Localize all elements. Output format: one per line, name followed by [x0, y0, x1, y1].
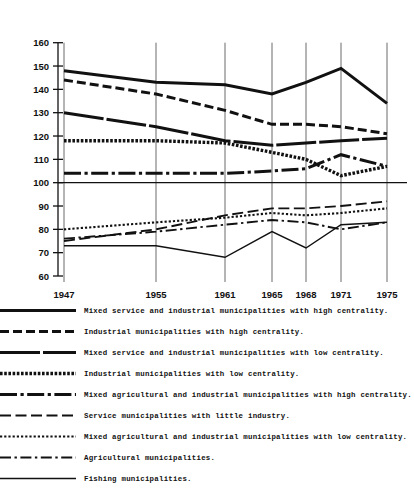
legend-table: Mixed service and industrial municipalit… [0, 300, 414, 489]
legend-swatch-cell [0, 384, 84, 405]
legend-swatch-cell [0, 321, 84, 342]
y-axis-tick-label: 160 [33, 37, 49, 48]
x-axis-tick-label: 1961 [214, 289, 236, 300]
chart-legend: Mixed service and industrial municipalit… [0, 300, 414, 489]
y-axis-tick-label: 120 [33, 131, 49, 142]
legend-label: Mixed service and industrial municipalit… [84, 342, 414, 363]
x-axis-tick-label: 1971 [330, 289, 352, 300]
series-line-0 [64, 68, 387, 103]
legend-swatch-thick-dashed [0, 328, 76, 335]
legend-row: Service municipalities with little indus… [0, 405, 414, 426]
legend-swatch-cell [0, 426, 84, 447]
legend-swatch-thick-solid [0, 307, 76, 314]
legend-label: Industrial municipalities with low centr… [84, 363, 414, 384]
legend-swatch-cell [0, 342, 84, 363]
legend-swatch-long-dash-dot [0, 391, 76, 398]
legend-swatch-thick-solid-gapped [0, 349, 76, 356]
y-axis-tick-label: 90 [38, 201, 49, 212]
legend-swatch-cell [0, 405, 84, 426]
legend-row: Fishing municipalities. [0, 468, 414, 489]
y-axis-tick-label: 150 [33, 61, 49, 72]
legend-row: Mixed agricultural and industrial munici… [0, 384, 414, 405]
legend-swatch-fine-dotted [0, 433, 76, 440]
line-chart: 6070809010011012013014015016019471955196… [0, 0, 414, 300]
y-axis-tick-label: 110 [34, 154, 49, 165]
legend-label: Mixed agricultural and industrial munici… [84, 384, 414, 405]
legend-label: Mixed agricultural and industrial munici… [84, 426, 414, 447]
legend-swatch-long-dashed [0, 412, 76, 419]
legend-swatch-cell [0, 300, 84, 321]
x-axis-tick-label: 1965 [261, 289, 283, 300]
series-line-1 [64, 80, 387, 134]
legend-row: Industrial municipalities with low centr… [0, 363, 414, 384]
legend-swatch-thin-solid [0, 475, 76, 482]
series-line-8 [64, 222, 387, 257]
legend-row: Mixed agricultural and industrial munici… [0, 426, 414, 447]
legend-label: Service municipalities with little indus… [84, 405, 414, 426]
x-axis-tick-label: 1968 [295, 289, 316, 300]
x-axis-tick-label: 1975 [376, 289, 398, 300]
series-line-7 [64, 220, 387, 239]
series-line-3 [64, 141, 387, 176]
legend-label: Fishing municipalities. [84, 468, 414, 489]
y-axis-tick-label: 70 [38, 247, 49, 258]
legend-row: Mixed service and industrial municipalit… [0, 300, 414, 321]
y-axis-tick-label: 60 [38, 271, 49, 282]
legend-row: Industrial municipalities with high cent… [0, 321, 414, 342]
y-axis-tick-label: 80 [38, 224, 49, 235]
y-axis-tick-label: 140 [33, 84, 49, 95]
x-axis-tick-label: 1955 [145, 289, 167, 300]
legend-row: Agricultural municipalities. [0, 447, 414, 468]
legend-swatch-square-dotted [0, 370, 76, 377]
legend-label: Industrial municipalities with high cent… [84, 321, 414, 342]
legend-swatch-cell [0, 468, 84, 489]
legend-swatch-dash-dot-dash [0, 454, 76, 461]
y-axis-tick-label: 100 [33, 177, 49, 188]
legend-label: Mixed service and industrial municipalit… [84, 300, 414, 321]
legend-swatch-cell [0, 447, 84, 468]
chart-plot-area: 6070809010011012013014015016019471955196… [0, 0, 414, 300]
legend-swatch-cell [0, 363, 84, 384]
y-axis-tick-label: 130 [33, 107, 49, 118]
legend-label: Agricultural municipalities. [84, 447, 414, 468]
legend-row: Mixed service and industrial municipalit… [0, 342, 414, 363]
x-axis-tick-label: 1947 [53, 289, 74, 300]
series-line-4 [64, 155, 387, 174]
